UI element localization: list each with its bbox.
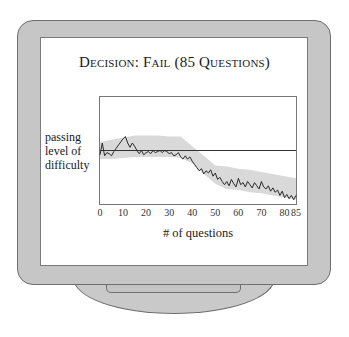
x-tick-label: 50: [210, 207, 220, 218]
x-tick-label: 40: [187, 207, 197, 218]
x-axis-label: # of questions: [99, 226, 297, 241]
x-tick-label: 70: [256, 207, 266, 218]
x-tick-label: 85: [291, 207, 301, 218]
x-tick-label: 20: [141, 207, 151, 218]
chart-plot: 0102030405060708085: [0, 0, 349, 337]
x-tick-label: 10: [118, 207, 128, 218]
x-tick-label: 0: [98, 207, 103, 218]
x-tick-label: 60: [233, 207, 243, 218]
x-axis-ticks: 0102030405060708085: [98, 207, 302, 218]
x-tick-label: 80: [279, 207, 289, 218]
x-tick-label: 30: [164, 207, 174, 218]
